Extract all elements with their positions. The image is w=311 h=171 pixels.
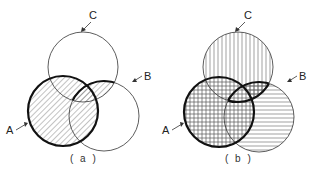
label-c: C (235, 9, 252, 32)
label-c: C (81, 9, 97, 32)
label-b: B (287, 70, 306, 82)
label-a: A (162, 122, 184, 136)
caption-a: ( a ) (70, 153, 98, 164)
label-b: B (132, 70, 151, 82)
svg-text:A: A (162, 124, 170, 136)
label-a: A (6, 122, 28, 136)
venn-figure: C B A ( a ) C B (0, 0, 311, 171)
svg-text:A: A (6, 124, 14, 136)
svg-text:B: B (144, 70, 151, 82)
svg-text:C: C (89, 9, 97, 21)
panel-a: C B A ( a ) (6, 9, 151, 164)
svg-text:B: B (299, 70, 306, 82)
caption-b: ( b ) (225, 153, 253, 164)
svg-text:C: C (244, 9, 252, 21)
panel-b: C B A ( b ) (162, 9, 306, 164)
